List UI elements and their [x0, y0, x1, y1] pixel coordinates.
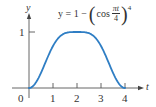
y-tick-label-1: 1: [19, 27, 25, 38]
x-tick-label-1: 1: [50, 93, 56, 104]
equation-lhs: y = 1 −: [58, 8, 87, 19]
x-tick-label-3: 3: [98, 93, 104, 104]
equation-fraction: πt 4: [112, 4, 120, 23]
y-axis-arrow-icon: [27, 13, 31, 19]
x-ticks: [53, 83, 125, 88]
equation-annotation: y = 1 − ( cos πt 4 ) 4: [58, 3, 131, 23]
open-paren: (: [89, 2, 96, 24]
x-tick-label-4: 4: [122, 93, 128, 104]
x-tick-label-0: 0: [18, 93, 24, 104]
close-paren: ): [121, 2, 128, 24]
x-tick-label-2: 2: [74, 93, 80, 104]
x-axis-label: t: [146, 82, 149, 92]
data-curve: [29, 32, 125, 88]
equation-func: cos: [96, 8, 109, 19]
equation-exponent: 4: [128, 4, 132, 12]
y-axis-label: y: [26, 3, 30, 13]
fraction-numerator: πt: [112, 4, 120, 14]
x-axis-arrow-icon: [138, 86, 144, 90]
fraction-denominator: 4: [114, 14, 118, 23]
